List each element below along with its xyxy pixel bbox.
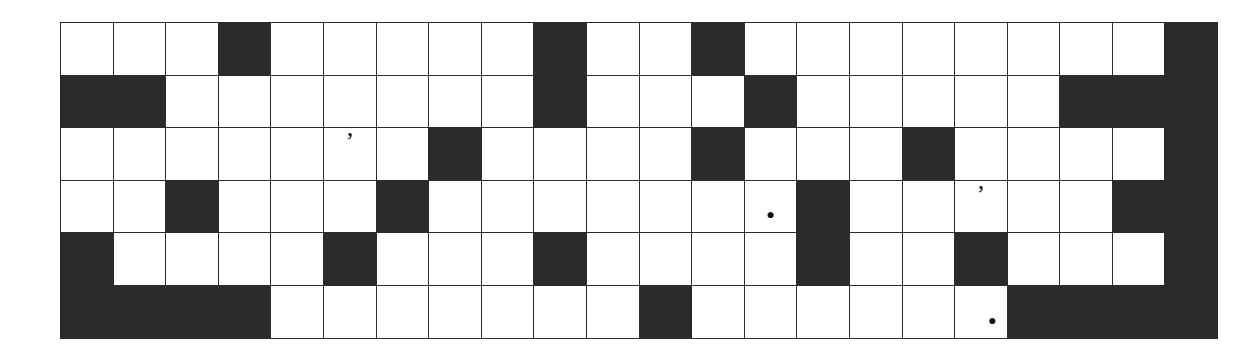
crossword-open-cell[interactable] xyxy=(113,23,166,76)
crossword-open-cell[interactable] xyxy=(166,23,219,76)
crossword-open-cell[interactable] xyxy=(481,285,534,338)
crossword-open-cell[interactable] xyxy=(692,233,745,286)
crossword-open-cell[interactable] xyxy=(1112,23,1165,76)
crossword-open-cell[interactable] xyxy=(271,23,324,76)
crossword-open-cell[interactable] xyxy=(744,23,797,76)
crossword-open-cell[interactable] xyxy=(218,75,271,128)
crossword-open-cell[interactable] xyxy=(166,233,219,286)
crossword-open-cell[interactable] xyxy=(376,233,429,286)
crossword-open-cell[interactable] xyxy=(586,75,639,128)
crossword-open-cell[interactable] xyxy=(744,128,797,181)
crossword-open-cell[interactable] xyxy=(1060,23,1113,76)
crossword-open-cell[interactable] xyxy=(271,233,324,286)
crossword-open-cell[interactable] xyxy=(271,75,324,128)
crossword-open-cell[interactable] xyxy=(61,128,114,181)
crossword-open-cell[interactable] xyxy=(744,285,797,338)
crossword-open-cell[interactable] xyxy=(481,75,534,128)
crossword-open-cell[interactable] xyxy=(849,285,902,338)
crossword-open-cell[interactable] xyxy=(692,285,745,338)
crossword-open-cell[interactable] xyxy=(849,180,902,233)
crossword-open-cell[interactable] xyxy=(113,180,166,233)
crossword-open-cell[interactable] xyxy=(534,128,587,181)
crossword-open-cell[interactable] xyxy=(113,128,166,181)
crossword-open-cell[interactable] xyxy=(639,128,692,181)
crossword-open-cell[interactable]: • xyxy=(744,180,797,233)
crossword-open-cell[interactable] xyxy=(1007,23,1060,76)
crossword-open-cell[interactable] xyxy=(639,23,692,76)
crossword-open-cell[interactable] xyxy=(1007,233,1060,286)
crossword-open-cell[interactable] xyxy=(166,75,219,128)
crossword-open-cell[interactable] xyxy=(1112,233,1165,286)
crossword-open-cell[interactable] xyxy=(481,23,534,76)
crossword-open-cell[interactable] xyxy=(376,128,429,181)
crossword-open-cell[interactable] xyxy=(902,75,955,128)
crossword-open-cell[interactable] xyxy=(902,233,955,286)
crossword-open-cell[interactable] xyxy=(1112,128,1165,181)
crossword-open-cell[interactable] xyxy=(61,23,114,76)
crossword-open-cell[interactable] xyxy=(639,180,692,233)
period-mark: • xyxy=(988,309,997,335)
crossword-open-cell[interactable] xyxy=(481,128,534,181)
crossword-open-cell[interactable] xyxy=(323,23,376,76)
crossword-block-cell xyxy=(639,285,692,338)
crossword-open-cell[interactable] xyxy=(218,128,271,181)
crossword-open-cell[interactable] xyxy=(376,75,429,128)
crossword-open-cell[interactable] xyxy=(586,285,639,338)
crossword-open-cell[interactable] xyxy=(166,128,219,181)
crossword-open-cell[interactable] xyxy=(1007,180,1060,233)
crossword-open-cell[interactable]: • xyxy=(955,285,1008,338)
crossword-open-cell[interactable] xyxy=(323,180,376,233)
crossword-open-cell[interactable] xyxy=(1060,233,1113,286)
crossword-open-cell[interactable] xyxy=(1060,180,1113,233)
crossword-open-cell[interactable] xyxy=(955,128,1008,181)
crossword-open-cell[interactable] xyxy=(692,180,745,233)
crossword-open-cell[interactable] xyxy=(639,233,692,286)
crossword-open-cell[interactable] xyxy=(429,285,482,338)
crossword-open-cell[interactable] xyxy=(586,23,639,76)
crossword-open-cell[interactable] xyxy=(639,75,692,128)
crossword-open-cell[interactable] xyxy=(1060,128,1113,181)
crossword-open-cell[interactable] xyxy=(376,285,429,338)
crossword-open-cell[interactable] xyxy=(902,285,955,338)
crossword-open-cell[interactable] xyxy=(429,23,482,76)
crossword-open-cell[interactable] xyxy=(271,180,324,233)
crossword-open-cell[interactable] xyxy=(61,180,114,233)
crossword-open-cell[interactable] xyxy=(849,23,902,76)
crossword-open-cell[interactable] xyxy=(534,180,587,233)
crossword-open-cell[interactable] xyxy=(955,75,1008,128)
crossword-open-cell[interactable] xyxy=(481,180,534,233)
crossword-open-cell[interactable] xyxy=(323,285,376,338)
crossword-open-cell[interactable] xyxy=(376,23,429,76)
crossword-open-cell[interactable]: ’ xyxy=(955,180,1008,233)
crossword-open-cell[interactable] xyxy=(902,180,955,233)
crossword-open-cell[interactable] xyxy=(849,75,902,128)
crossword-open-cell[interactable] xyxy=(1007,128,1060,181)
crossword-open-cell[interactable] xyxy=(271,285,324,338)
crossword-open-cell[interactable] xyxy=(744,233,797,286)
crossword-open-cell[interactable] xyxy=(323,75,376,128)
crossword-open-cell[interactable] xyxy=(849,128,902,181)
crossword-open-cell[interactable]: ’ xyxy=(323,128,376,181)
crossword-open-cell[interactable] xyxy=(586,180,639,233)
crossword-open-cell[interactable] xyxy=(797,23,850,76)
crossword-open-cell[interactable] xyxy=(429,233,482,286)
crossword-open-cell[interactable] xyxy=(849,233,902,286)
crossword-open-cell[interactable] xyxy=(692,75,745,128)
crossword-open-cell[interactable] xyxy=(902,23,955,76)
crossword-open-cell[interactable] xyxy=(955,23,1008,76)
crossword-open-cell[interactable] xyxy=(429,75,482,128)
crossword-open-cell[interactable] xyxy=(218,180,271,233)
crossword-open-cell[interactable] xyxy=(429,180,482,233)
crossword-grid[interactable]: ’•’• xyxy=(60,22,1218,339)
crossword-open-cell[interactable] xyxy=(797,75,850,128)
crossword-open-cell[interactable] xyxy=(586,128,639,181)
crossword-open-cell[interactable] xyxy=(218,233,271,286)
crossword-open-cell[interactable] xyxy=(797,128,850,181)
crossword-open-cell[interactable] xyxy=(113,233,166,286)
crossword-open-cell[interactable] xyxy=(481,233,534,286)
crossword-open-cell[interactable] xyxy=(271,128,324,181)
crossword-open-cell[interactable] xyxy=(534,285,587,338)
crossword-open-cell[interactable] xyxy=(586,233,639,286)
crossword-open-cell[interactable] xyxy=(797,285,850,338)
crossword-open-cell[interactable] xyxy=(1007,75,1060,128)
